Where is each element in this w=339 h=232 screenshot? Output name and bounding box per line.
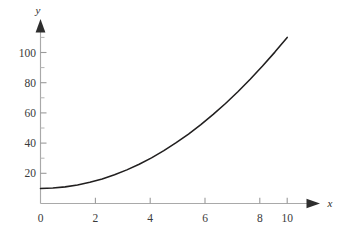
chart-plot-area: 20 40 60 80 100 0 2 4 6 8 10 y x <box>0 0 339 232</box>
x-axis-major-ticks <box>95 198 287 204</box>
y-axis-label: y <box>35 4 41 16</box>
x-tick-label: 6 <box>202 212 208 224</box>
y-tick-label: 20 <box>25 167 37 179</box>
x-tick-label: 4 <box>147 212 153 224</box>
chart-figure: 20 40 60 80 100 0 2 4 6 8 10 y x <box>0 0 339 232</box>
x-axis-tick-labels: 0 2 4 6 8 10 <box>38 212 294 224</box>
y-axis-tick-labels: 20 40 60 80 100 <box>19 47 37 180</box>
x-axis-label: x <box>327 197 333 209</box>
y-tick-label: 60 <box>25 107 37 119</box>
y-tick-label: 100 <box>19 47 37 59</box>
x-tick-label: 10 <box>281 212 293 224</box>
axes-group <box>36 19 320 208</box>
y-axis-major-ticks <box>41 53 47 174</box>
arrow-right-icon <box>307 199 321 209</box>
y-tick-label: 80 <box>25 77 37 89</box>
x-tick-label: 8 <box>257 212 263 224</box>
data-curve <box>41 37 288 188</box>
arrow-up-icon <box>36 19 46 33</box>
x-tick-label: 2 <box>93 212 99 224</box>
y-tick-label: 40 <box>25 137 37 149</box>
x-tick-label: 0 <box>38 212 44 224</box>
